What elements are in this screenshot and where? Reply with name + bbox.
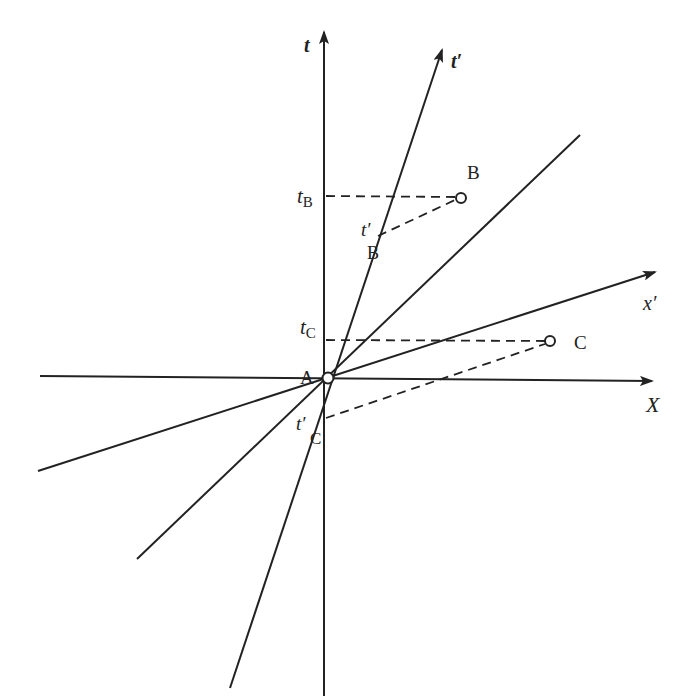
c-tprime-projection — [326, 344, 545, 418]
diagram-svg: t t′ x′ X A B tB t′ B C tC t′ C — [0, 0, 700, 696]
event-c-marker — [545, 336, 555, 346]
x-axis — [40, 376, 652, 381]
x-axis-label: X — [645, 392, 661, 417]
event-b-marker — [456, 193, 466, 203]
event-a-marker — [323, 373, 334, 384]
b-t-projection — [326, 196, 455, 197]
spacetime-diagram: t t′ x′ X A B tB t′ B C tC t′ C — [0, 0, 700, 696]
t-prime-b-sub: B — [367, 243, 379, 263]
event-a-label: A — [300, 367, 314, 388]
light-line — [137, 135, 580, 559]
event-b-label: B — [467, 162, 480, 183]
t-prime-c-sub: C — [310, 429, 321, 448]
t-prime-b-label: t′ — [361, 219, 371, 240]
t-b-label: tB — [297, 184, 313, 210]
t-c-label: tC — [300, 315, 316, 341]
t-axis-label: t — [304, 34, 311, 56]
t-prime-axis-label: t′ — [451, 50, 462, 72]
event-c-label: C — [574, 332, 587, 353]
t-prime-c-label: t′ — [296, 413, 306, 434]
x-prime-axis — [38, 272, 655, 471]
c-t-projection — [326, 340, 545, 341]
x-prime-axis-label: x′ — [642, 292, 657, 314]
